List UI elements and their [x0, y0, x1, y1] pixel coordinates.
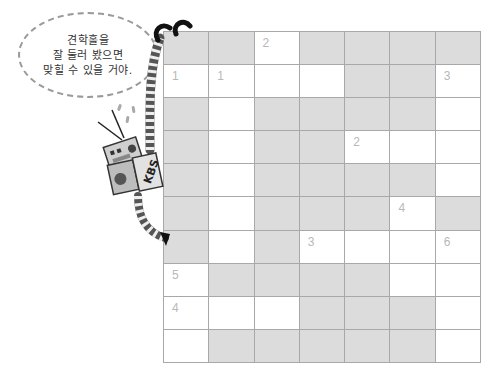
crossword-block-cell: [345, 164, 389, 196]
crossword-block-cell: [164, 197, 208, 229]
crossword-input-cell[interactable]: [345, 231, 389, 263]
crossword-block-cell: [345, 65, 389, 97]
crossword-block-cell: [255, 131, 299, 163]
crossword-input-cell[interactable]: 1: [209, 65, 253, 97]
clue-number: 5: [172, 268, 179, 282]
crossword-input-cell[interactable]: [390, 231, 434, 263]
clue-number: 4: [398, 201, 405, 215]
crossword-input-cell[interactable]: [436, 164, 480, 196]
crossword-input-cell[interactable]: [300, 65, 344, 97]
crossword-input-cell[interactable]: [209, 297, 253, 329]
bubble-tail-dot: [125, 116, 129, 123]
crossword-block-cell: [345, 98, 389, 130]
crossword-block-cell: [300, 32, 344, 64]
crossword-input-cell[interactable]: 2: [255, 32, 299, 64]
crossword-input-cell[interactable]: [436, 297, 480, 329]
crossword-grid: 2113243654: [163, 31, 481, 363]
crossword-input-cell[interactable]: [209, 164, 253, 196]
crossword-input-cell[interactable]: [209, 131, 253, 163]
crossword-block-cell: [345, 197, 389, 229]
crossword-input-cell[interactable]: [436, 98, 480, 130]
clue-number: 6: [444, 235, 451, 249]
crossword-block-cell: [255, 98, 299, 130]
crossword-input-cell[interactable]: [209, 197, 253, 229]
crossword-block-cell: [390, 297, 434, 329]
speech-line-1: 견학홀을: [67, 33, 109, 48]
crossword-input-cell[interactable]: 5: [164, 264, 208, 296]
crossword-block-cell: [164, 164, 208, 196]
crossword-input-cell[interactable]: 6: [436, 231, 480, 263]
crossword-block-cell: [209, 264, 253, 296]
clue-number: 3: [308, 235, 315, 249]
crossword-input-cell[interactable]: [390, 131, 434, 163]
crossword-block-cell: [300, 98, 344, 130]
crossword-block-cell: [300, 330, 344, 362]
clue-number: 4: [172, 301, 179, 315]
crossword-block-cell: [300, 264, 344, 296]
crossword-block-cell: [164, 231, 208, 263]
clue-number: 3: [444, 69, 451, 83]
crossword-input-cell[interactable]: [255, 65, 299, 97]
crossword-input-cell[interactable]: [164, 330, 208, 362]
crossword-input-cell[interactable]: 3: [300, 231, 344, 263]
crossword-block-cell: [164, 98, 208, 130]
speech-line-2: 잘 둘러 봤으면: [53, 48, 124, 63]
crossword-block-cell: [209, 330, 253, 362]
crossword-input-cell[interactable]: 4: [390, 197, 434, 229]
crossword-block-cell: [436, 197, 480, 229]
crossword-input-cell[interactable]: 4: [164, 297, 208, 329]
crossword-block-cell: [390, 164, 434, 196]
crossword-block-cell: [255, 197, 299, 229]
crossword-input-cell[interactable]: [436, 330, 480, 362]
crossword-block-cell: [209, 32, 253, 64]
crossword-block-cell: [345, 264, 389, 296]
clue-number: 1: [217, 69, 224, 83]
crossword-block-cell: [345, 32, 389, 64]
crossword-block-cell: [300, 197, 344, 229]
crossword-block-cell: [164, 131, 208, 163]
crossword-block-cell: [255, 330, 299, 362]
crossword-input-cell[interactable]: [209, 98, 253, 130]
crossword-block-cell: [164, 32, 208, 64]
crossword-block-cell: [255, 164, 299, 196]
crossword-input-cell[interactable]: [209, 231, 253, 263]
svg-text:KBS: KBS: [141, 158, 162, 186]
clue-number: 2: [263, 36, 270, 50]
crossword-input-cell[interactable]: [255, 297, 299, 329]
crossword-input-cell[interactable]: [390, 264, 434, 296]
clue-number: 1: [172, 69, 179, 83]
crossword-input-cell[interactable]: 1: [164, 65, 208, 97]
crossword-block-cell: [390, 65, 434, 97]
crossword-input-cell[interactable]: 2: [345, 131, 389, 163]
bubble-tail-dot: [117, 104, 122, 112]
crossword-block-cell: [390, 330, 434, 362]
crossword-input-cell[interactable]: [436, 264, 480, 296]
speech-line-3: 맞힐 수 있을 거야.: [43, 63, 133, 78]
crossword-block-cell: [345, 330, 389, 362]
crossword-block-cell: [255, 231, 299, 263]
crossword-block-cell: [255, 264, 299, 296]
crossword-input-cell[interactable]: [436, 131, 480, 163]
crossword-block-cell: [436, 32, 480, 64]
clue-number: 2: [353, 135, 360, 149]
bubble-tail-dot: [131, 106, 135, 113]
speech-bubble: 견학홀을 잘 둘러 봤으면 맞힐 수 있을 거야.: [18, 12, 158, 98]
crossword-block-cell: [390, 98, 434, 130]
crossword-block-cell: [390, 32, 434, 64]
crossword-block-cell: [300, 164, 344, 196]
crossword-block-cell: [300, 131, 344, 163]
crossword-block-cell: [300, 297, 344, 329]
crossword-input-cell[interactable]: 3: [436, 65, 480, 97]
crossword-block-cell: [345, 297, 389, 329]
